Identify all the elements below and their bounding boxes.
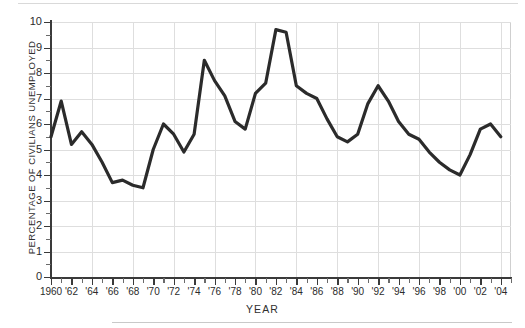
chart-figure: PERCENTAGE OF CIVILIANS UNEMPLOYED 01234… — [0, 0, 525, 328]
series-layer — [0, 0, 525, 328]
x-axis-title: YEAR — [0, 303, 525, 315]
unemployment-line — [51, 30, 501, 188]
